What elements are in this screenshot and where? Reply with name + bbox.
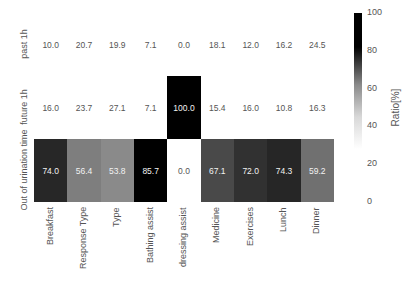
heatmap-cell: 53.8 bbox=[101, 139, 134, 202]
x-tick-label: dressing assist bbox=[178, 207, 188, 267]
colorbar-tick: 0 bbox=[367, 196, 372, 206]
heatmap-cell: 16.2 bbox=[267, 13, 300, 76]
heatmap-cell: 74.3 bbox=[267, 139, 300, 202]
heatmap-cell: 19.9 bbox=[101, 13, 134, 76]
colorbar-tick: 20 bbox=[367, 158, 377, 168]
colorbar-tick: 100 bbox=[367, 7, 382, 17]
x-tick-label: Lunch bbox=[278, 207, 288, 232]
heatmap-cell: 0.0 bbox=[167, 13, 200, 76]
x-tick-label: Bathing assist bbox=[145, 207, 155, 263]
heatmap-cell: 16.3 bbox=[301, 76, 334, 139]
x-tick-label: Type bbox=[111, 207, 121, 227]
heatmap-cell: 85.7 bbox=[134, 139, 167, 202]
heatmap-cell: 27.1 bbox=[101, 76, 134, 139]
heatmap-cell: 10.0 bbox=[34, 13, 67, 76]
heatmap-cell: 12.0 bbox=[234, 13, 267, 76]
colorbar-label: Ratio[%] bbox=[390, 77, 401, 137]
x-tick-label: Medicine bbox=[211, 207, 221, 243]
x-tick-label: Exercises bbox=[245, 207, 255, 246]
heatmap-cell: 23.7 bbox=[67, 76, 100, 139]
heatmap-cell: 24.5 bbox=[301, 13, 334, 76]
heatmap-cell: 20.7 bbox=[67, 13, 100, 76]
heatmap-cell: 100.0 bbox=[167, 76, 200, 139]
heatmap-cell: 7.1 bbox=[134, 76, 167, 139]
heatmap-cell: 18.1 bbox=[201, 13, 234, 76]
colorbar-tick: 80 bbox=[367, 45, 377, 55]
heatmap-plot: 10.020.719.97.10.018.112.016.224.516.023… bbox=[34, 13, 334, 202]
x-tick-label: Dinner bbox=[311, 207, 321, 234]
heatmap-cell: 16.0 bbox=[234, 76, 267, 139]
heatmap-cell: 7.1 bbox=[134, 13, 167, 76]
heatmap-cell: 59.2 bbox=[301, 139, 334, 202]
x-tick-label: Breakfast bbox=[45, 207, 55, 245]
heatmap-cell: 67.1 bbox=[201, 139, 234, 202]
colorbar bbox=[354, 13, 362, 202]
heatmap-cell: 15.4 bbox=[201, 76, 234, 139]
y-tick-label: Out of urination time bbox=[19, 110, 29, 230]
x-tick-label: Response Type bbox=[78, 207, 88, 269]
heatmap-cell: 16.0 bbox=[34, 76, 67, 139]
heatmap-cell: 74.0 bbox=[34, 139, 67, 202]
heatmap-cell: 56.4 bbox=[67, 139, 100, 202]
heatmap-cell: 10.8 bbox=[267, 76, 300, 139]
colorbar-tick: 40 bbox=[367, 120, 377, 130]
heatmap-cell: 72.0 bbox=[234, 139, 267, 202]
heatmap-cell: 0.0 bbox=[167, 139, 200, 202]
colorbar-tick: 60 bbox=[367, 83, 377, 93]
